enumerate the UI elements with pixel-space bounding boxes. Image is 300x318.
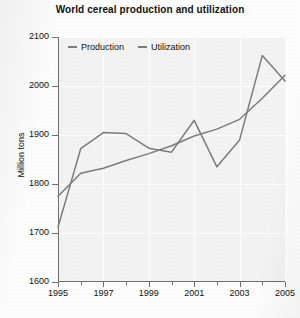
x-axis-tick [262, 282, 263, 285]
x-axis-tick [194, 282, 195, 287]
x-axis-tick [81, 282, 82, 285]
x-axis-tick [149, 282, 150, 287]
legend-label-utilization: Utilization [151, 42, 190, 52]
y-axis-tick [52, 135, 58, 136]
x-axis-tick-label: 1999 [129, 288, 169, 298]
y-axis-tick-label: 1900 [9, 129, 49, 139]
y-axis-tick [52, 233, 58, 234]
x-axis-tick [240, 282, 241, 287]
x-axis-tick-label: 1995 [38, 288, 78, 298]
gridline-vertical [103, 37, 104, 282]
x-axis-tick [58, 282, 59, 287]
plot-area [58, 37, 285, 282]
y-axis-tick-label: 1700 [9, 227, 49, 237]
x-axis-tick [285, 282, 286, 287]
y-axis-tick [52, 184, 58, 185]
x-axis-tick-label: 1997 [83, 288, 123, 298]
x-axis-tick [217, 282, 218, 285]
y-axis-tick-label: 1600 [9, 276, 49, 286]
legend-item-utilization: Utilization [138, 42, 190, 52]
x-axis-tick-label: 2003 [220, 288, 260, 298]
gridline-vertical [240, 37, 241, 282]
gridline-horizontal [58, 37, 285, 38]
chart-legend: Production Utilization [68, 42, 190, 52]
gridline-horizontal [58, 184, 285, 185]
legend-line-swatch-utilization [138, 46, 147, 48]
x-axis-tick [172, 282, 173, 285]
y-axis-tick [52, 86, 58, 87]
gridline-horizontal [58, 233, 285, 234]
legend-label-production: Production [81, 42, 124, 52]
legend-item-production: Production [68, 42, 124, 52]
gridline-vertical [194, 37, 195, 282]
chart-page: World cereal production and utilization … [0, 0, 300, 318]
x-axis-tick [103, 282, 104, 287]
chart-title: World cereal production and utilization [0, 4, 300, 15]
y-axis-tick-label: 1800 [9, 178, 49, 188]
legend-line-swatch-production [68, 46, 77, 48]
gridline-horizontal [58, 135, 285, 136]
gridline-horizontal [58, 86, 285, 87]
x-axis-tick [126, 282, 127, 285]
x-axis-tick-label: 2005 [265, 288, 300, 298]
y-axis-tick [52, 37, 58, 38]
y-axis-tick-label: 2100 [9, 31, 49, 41]
y-axis-tick-label: 2000 [9, 80, 49, 90]
gridline-vertical [149, 37, 150, 282]
x-axis-tick-label: 2001 [174, 288, 214, 298]
